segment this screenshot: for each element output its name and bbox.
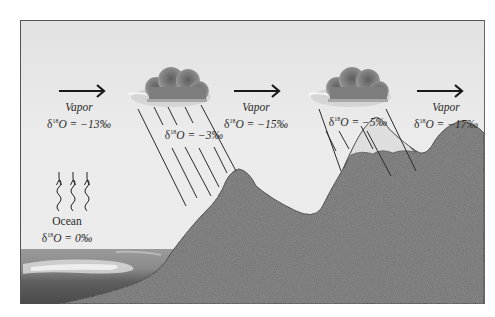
vapor-label-1: Vapor δ18O = −13‰	[39, 100, 119, 131]
right-arrow-icon	[59, 85, 104, 97]
vapor-word: Vapor	[406, 100, 485, 114]
delta-value: δ18O = −17‰	[406, 114, 485, 131]
rain-cloud-icon	[309, 67, 391, 107]
diagram-scene	[21, 21, 484, 304]
ocean-label: Ocean δ18O = 0‰	[29, 214, 105, 245]
vapor-label-3: Vapor δ18O = −17‰	[406, 100, 485, 131]
delta-value: δ18O = −5‰	[323, 112, 393, 129]
vapor-word: Vapor	[216, 100, 296, 114]
right-arrow-icon	[417, 85, 462, 97]
precipitation-label-2: δ18O = −5‰	[323, 112, 393, 129]
delta-value: δ18O = −13‰	[39, 114, 119, 131]
wavy-up-arrow-icon	[57, 172, 90, 211]
vapor-word: Vapor	[39, 100, 119, 114]
vapor-label-2: Vapor δ18O = −15‰	[216, 100, 296, 131]
isotope-diagram-frame: Vapor δ18O = −13‰ δ18O = −3‰ Vapor δ18O …	[20, 20, 485, 304]
rain-cloud-icon	[129, 67, 211, 107]
delta-value: δ18O = 0‰	[29, 228, 105, 245]
delta-value: δ18O = −15‰	[216, 114, 296, 131]
right-arrow-icon	[234, 85, 279, 97]
ocean-word: Ocean	[29, 214, 105, 228]
